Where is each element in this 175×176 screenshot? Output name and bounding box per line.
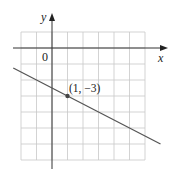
points xyxy=(65,94,69,98)
point-label: (1, −3) xyxy=(69,82,101,95)
origin-label: 0 xyxy=(42,50,48,64)
x-axis-label: x xyxy=(157,51,164,65)
coordinate-plane: y x 0 (1, −3) xyxy=(0,0,175,176)
series-line xyxy=(13,68,160,144)
y-axis-arrow-icon xyxy=(49,13,55,21)
data-point xyxy=(65,94,69,98)
y-axis-label: y xyxy=(40,10,47,24)
grid xyxy=(21,32,145,160)
series xyxy=(13,68,160,144)
